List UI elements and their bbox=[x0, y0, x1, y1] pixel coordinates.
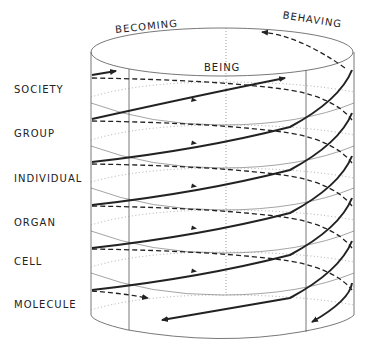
cylinder-outline bbox=[91, 28, 354, 339]
level-label-group: GROUP bbox=[14, 128, 55, 139]
level-label-individual: INDIVIDUAL bbox=[14, 173, 82, 184]
helix-cylinder-diagram: BECOMING BEING BEHAVING SOCIETY GROUP IN… bbox=[0, 0, 368, 348]
level-label-organ: ORGAN bbox=[14, 217, 56, 228]
level-label-cell: CELL bbox=[14, 256, 42, 267]
level-label-society: SOCIETY bbox=[14, 84, 64, 95]
helix-front-solid bbox=[92, 70, 352, 322]
level-label-molecule: MOLECULE bbox=[14, 299, 77, 310]
label-being: BEING bbox=[204, 62, 240, 73]
label-behaving: BEHAVING bbox=[282, 9, 343, 29]
back-rings-dotted bbox=[91, 82, 354, 310]
